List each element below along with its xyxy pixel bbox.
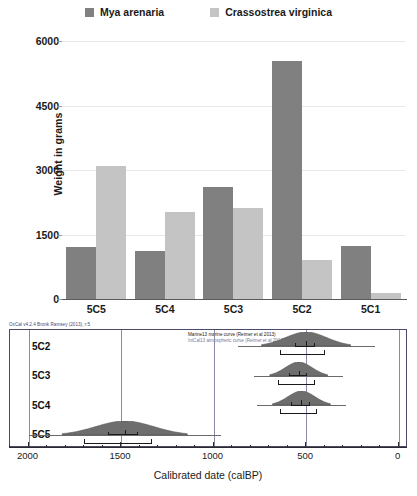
x-axis-tick-label: 2000 <box>17 450 38 461</box>
x-axis-major-tick <box>305 442 306 448</box>
oxcal-range-95 <box>280 409 317 414</box>
bar-group-5c3: 5C3 <box>199 41 268 299</box>
legend-label: Crassostrea virginica <box>225 6 332 18</box>
figure-container: Mya arenaria Crassostrea virginica Weigh… <box>0 0 417 496</box>
x-axis-major-tick <box>120 442 121 448</box>
oxcal-range-95 <box>278 380 315 385</box>
oxcal-probability-distribution <box>10 421 406 435</box>
y-axis-tick-label: 4500 <box>0 100 59 112</box>
legend-item-crassostrea-virginica: Crassostrea virginica <box>210 6 332 18</box>
bar-group-5c5: 5C5 <box>62 41 131 299</box>
x-axis-title: Calibrated date (calBP) <box>9 469 407 481</box>
oxcal-range-68 <box>108 432 138 436</box>
x-axis-minor-tick <box>65 445 66 449</box>
oxcal-median-marker <box>299 371 300 376</box>
oxcal-row-5c2: 5C2 <box>10 331 406 361</box>
square-swatch-icon <box>85 8 94 17</box>
oxcal-panel: OxCal v4.2.4 Bronk Ramsey (2013); r:5 Ma… <box>6 322 411 494</box>
x-axis-tick-label: 5C3 <box>199 303 268 315</box>
x-axis-tick-label: 1000 <box>202 450 223 461</box>
x-axis-minor-tick <box>324 445 325 449</box>
x-axis-minor-tick <box>250 445 251 449</box>
bar-group-5c4: 5C4 <box>131 41 200 299</box>
y-axis-tick-label: 6000 <box>0 35 59 47</box>
bar-5c5-series2 <box>96 166 126 299</box>
oxcal-row-5c4: 5C4 <box>10 390 406 420</box>
y-axis-tick-label: 3000 <box>0 164 59 176</box>
bar-5c1-series1 <box>341 246 371 299</box>
x-axis-minor-tick <box>361 445 362 449</box>
oxcal-row-5c5: 5C5 <box>10 420 406 450</box>
bar-5c2-series2 <box>302 260 332 299</box>
x-axis-major-tick <box>213 442 214 448</box>
x-axis-minor-tick <box>287 445 288 449</box>
bar-group-5c2: 5C2 <box>268 41 337 299</box>
oxcal-probability-distribution <box>10 362 406 376</box>
bar-chart-panel: Weight in grams 01500300045006000 5C55C4… <box>0 30 417 325</box>
x-axis-tick-label: 5C2 <box>268 303 337 315</box>
x-axis-minor-tick <box>157 445 158 449</box>
bar-5c3-series2 <box>233 208 263 299</box>
bar-5c4-series1 <box>135 251 165 299</box>
oxcal-range-95 <box>280 350 324 355</box>
x-axis-major-tick <box>28 442 29 448</box>
oxcal-plot-frame: Marine13 marine curve (Reimer et al 2013… <box>9 329 407 447</box>
x-axis-tick-label: 5C5 <box>62 303 131 315</box>
x-axis-minor-tick <box>194 445 195 449</box>
x-axis-minor-tick <box>46 445 47 449</box>
x-axis-minor-tick <box>83 445 84 449</box>
x-axis-tick-label: 5C1 <box>336 303 405 315</box>
bar-groups: 5C55C45C35C25C1 <box>62 41 405 299</box>
x-axis-line <box>62 299 407 300</box>
bar-plot-area: 01500300045006000 5C55C45C35C25C1 <box>62 41 405 299</box>
oxcal-probability-distribution <box>10 391 406 405</box>
square-swatch-icon <box>210 8 219 17</box>
x-axis-minor-tick <box>9 445 10 449</box>
x-axis-line <box>9 447 407 448</box>
x-axis-tick-label: 500 <box>297 450 313 461</box>
bar-group-5c1: 5C1 <box>336 41 405 299</box>
x-axis-minor-tick <box>342 445 343 449</box>
x-axis-major-tick <box>398 442 399 448</box>
oxcal-median-marker <box>306 341 307 346</box>
chart-legend: Mya arenaria Crassostrea virginica <box>0 6 417 18</box>
oxcal-credit: OxCal v4.2.4 Bronk Ramsey (2013); r:5 <box>9 322 90 327</box>
x-axis-tick-label: 1500 <box>109 450 130 461</box>
bar-5c3-series1 <box>203 187 233 299</box>
x-axis-minor-tick <box>176 445 177 449</box>
bar-5c4-series2 <box>165 212 195 299</box>
oxcal-row-5c3: 5C3 <box>10 361 406 391</box>
x-axis-tick-label: 5C4 <box>131 303 200 315</box>
x-axis-minor-tick <box>268 445 269 449</box>
oxcal-median-marker <box>125 430 126 435</box>
x-axis-minor-tick <box>102 445 103 449</box>
legend-label: Mya arenaria <box>100 6 164 18</box>
x-axis-minor-tick <box>379 445 380 449</box>
y-axis-tick-label: 1500 <box>0 229 59 241</box>
oxcal-range-95 <box>84 439 152 444</box>
bar-5c2-series1 <box>272 61 302 299</box>
oxcal-median-marker <box>301 400 302 405</box>
x-axis-minor-tick <box>139 445 140 449</box>
legend-item-mya-arenaria: Mya arenaria <box>85 6 164 18</box>
oxcal-x-axis: 2000150010005000 Calibrated date (calBP) <box>9 447 407 463</box>
oxcal-probability-distribution <box>10 332 406 346</box>
bar-5c5-series1 <box>66 247 96 299</box>
x-axis-tick-label: 0 <box>395 450 400 461</box>
y-axis-tick-label: 0 <box>0 293 59 305</box>
x-axis-minor-tick <box>231 445 232 449</box>
